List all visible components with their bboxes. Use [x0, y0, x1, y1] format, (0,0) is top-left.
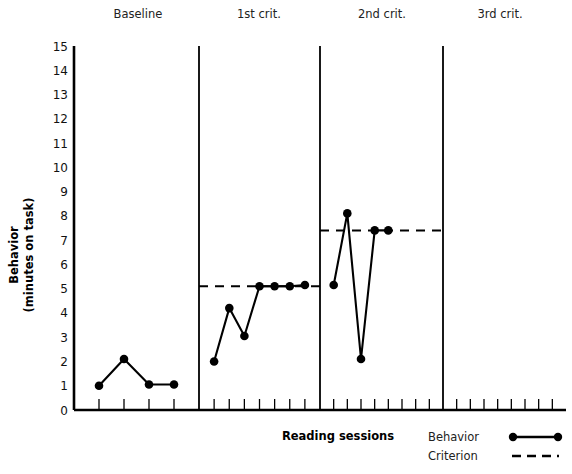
phase-header-1st-crit: 1st crit. — [237, 7, 281, 21]
data-point — [329, 281, 338, 290]
y-tick-label-0: 0 — [60, 404, 68, 418]
y-tick-label-1: 1 — [60, 379, 68, 393]
y-tick-label-5: 5 — [60, 282, 68, 296]
data-point — [384, 226, 393, 235]
data-point — [95, 381, 104, 390]
y-tick-label-10: 10 — [53, 161, 68, 175]
data-point — [301, 281, 310, 290]
y-tick-label-11: 11 — [53, 137, 68, 151]
phase-header-3rd-crit: 3rd crit. — [477, 7, 522, 21]
data-point — [357, 355, 366, 364]
y-tick-label-9: 9 — [60, 185, 68, 199]
legend-label-behavior: Behavior — [428, 430, 479, 444]
phase-headers: Baseline 1st crit. 2nd crit. 3rd crit. — [114, 7, 523, 21]
data-point — [145, 380, 154, 389]
data-point — [255, 282, 264, 291]
y-axis-tick-labels: 0123456789101112131415 — [53, 40, 68, 418]
y-tick-label-6: 6 — [60, 258, 68, 272]
y-tick-label-3: 3 — [60, 331, 68, 345]
data-point — [170, 380, 179, 389]
chart-container: Baseline 1st crit. 2nd crit. 3rd crit. B… — [0, 0, 572, 474]
y-axis-title: Behavior (minutes on task) — [7, 198, 36, 313]
x-axis-title: Reading sessions — [282, 429, 394, 443]
data-point — [240, 332, 249, 341]
y-tick-label-7: 7 — [60, 234, 68, 248]
data-point — [120, 355, 129, 364]
behavior-line-phase-1 — [99, 359, 174, 386]
data-point — [210, 357, 219, 366]
y-axis-title-line2: (minutes on task) — [22, 198, 36, 313]
y-tick-label-13: 13 — [53, 88, 68, 102]
data-point — [343, 209, 352, 218]
y-tick-label-2: 2 — [60, 355, 68, 369]
y-tick-label-8: 8 — [60, 209, 68, 223]
x-axis-tick-marks — [99, 399, 552, 410]
criterion-lines — [199, 230, 443, 286]
behavior-line-phase-2 — [214, 285, 305, 362]
y-tick-label-12: 12 — [53, 112, 68, 126]
data-point — [270, 282, 279, 291]
legend: Behavior Criterion — [428, 430, 562, 463]
legend-marker-behavior-icon — [509, 433, 562, 441]
y-tick-label-15: 15 — [53, 40, 68, 54]
legend-label-criterion: Criterion — [428, 449, 478, 463]
data-point — [225, 304, 234, 313]
behavior-line-phase-3 — [334, 213, 389, 359]
phase-header-baseline: Baseline — [114, 7, 163, 21]
phase-header-2nd-crit: 2nd crit. — [358, 7, 406, 21]
y-axis-title-line1: Behavior — [7, 226, 21, 284]
y-tick-label-14: 14 — [53, 64, 68, 78]
data-point — [286, 282, 295, 291]
data-point — [370, 226, 379, 235]
behavior-series — [95, 209, 393, 390]
behavior-criterion-line-chart: Baseline 1st crit. 2nd crit. 3rd crit. B… — [0, 0, 572, 474]
y-tick-label-4: 4 — [60, 306, 68, 320]
